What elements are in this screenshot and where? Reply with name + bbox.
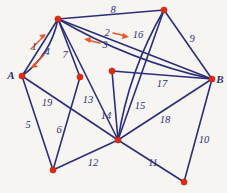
graph-edge [58, 19, 80, 77]
graph-diagram: 12345678910111213141516171819AB [0, 0, 227, 193]
vertex-label-a: A [7, 70, 14, 81]
graph-vertex [209, 76, 215, 82]
graph-edge [22, 76, 118, 140]
edge-label: 9 [189, 34, 194, 45]
edge-label: 4 [44, 47, 49, 58]
graph-vertex [181, 179, 187, 185]
edge-label: 18 [160, 115, 171, 126]
graph-canvas [0, 0, 227, 193]
graph-vertex [77, 74, 83, 80]
edge-label: 11 [148, 158, 158, 169]
graph-vertex [115, 137, 121, 143]
edge-label: 15 [135, 101, 146, 112]
edge-label: 19 [42, 98, 53, 109]
edge-label: 2 [104, 28, 109, 39]
vertex-label-b: B [216, 74, 223, 85]
graph-vertex [109, 68, 115, 74]
arrow-right-icon [113, 33, 129, 39]
graph-vertex [50, 167, 56, 173]
graph-edge [22, 19, 58, 76]
edge-label: 3 [102, 40, 107, 51]
edge-label: 6 [56, 125, 61, 136]
edge-label: 12 [88, 158, 99, 169]
graph-edge [53, 140, 118, 170]
arrow-down-left-icon [31, 55, 44, 68]
edge-label: 10 [199, 135, 210, 146]
edge-label: 7 [62, 50, 67, 61]
graph-vertex [55, 16, 61, 22]
edge-label: 17 [157, 79, 168, 90]
edge-label: 1 [31, 42, 36, 53]
graph-vertex [161, 7, 167, 13]
edge-label: 16 [133, 30, 144, 41]
edge-label: 14 [101, 111, 112, 122]
edge-label: 13 [83, 95, 94, 106]
graph-vertex [19, 73, 25, 79]
edge-label: 8 [110, 5, 115, 16]
edge-label: 5 [25, 120, 30, 131]
